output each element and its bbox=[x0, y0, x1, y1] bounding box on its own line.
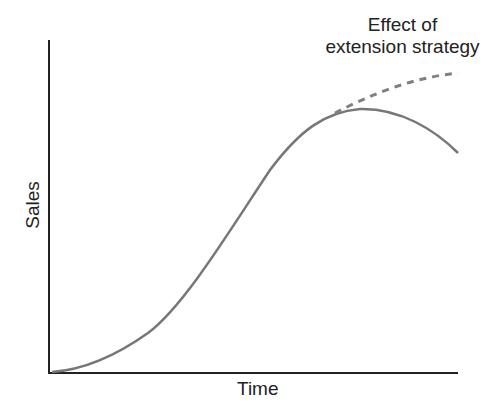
extension-annotation: Effect of extension strategy bbox=[325, 14, 480, 58]
sales-curve bbox=[52, 109, 458, 372]
x-axis-label: Time bbox=[237, 378, 279, 400]
extension-strategy-curve bbox=[335, 73, 458, 113]
annotation-line-1: Effect of bbox=[325, 14, 480, 36]
y-axis-label: Sales bbox=[22, 181, 44, 229]
annotation-line-2: extension strategy bbox=[325, 36, 480, 58]
product-life-cycle-chart bbox=[0, 0, 495, 420]
axes bbox=[48, 40, 458, 373]
